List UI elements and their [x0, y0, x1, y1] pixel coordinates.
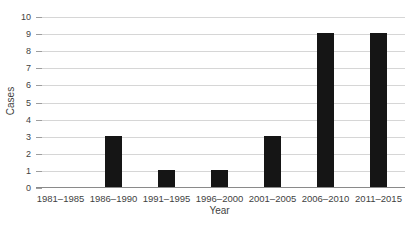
y-tick-label: 2	[0, 148, 31, 160]
y-axis-tick	[36, 188, 42, 189]
x-tick-label: 1991–1995	[140, 193, 193, 205]
y-tick-label: 0	[0, 182, 31, 194]
bar-2011–2015	[370, 33, 387, 187]
x-tick-label: 2006–2010	[299, 193, 352, 205]
bar-2006–2010	[317, 33, 334, 187]
y-axis-tick	[36, 154, 42, 155]
x-axis-line	[36, 187, 405, 188]
gridline	[42, 85, 405, 86]
x-tick-label: 2011–2015	[352, 193, 405, 205]
y-axis-tick	[36, 171, 42, 172]
bar-1986–1990	[105, 136, 122, 187]
y-tick-label: 7	[0, 62, 31, 74]
y-tick-label: 1	[0, 165, 31, 177]
x-tick-label: 2001–2005	[246, 193, 299, 205]
y-tick-label: 8	[0, 45, 31, 57]
y-axis-tick	[36, 120, 42, 121]
y-axis-tick	[36, 68, 42, 69]
gridline	[42, 34, 405, 35]
y-tick-label: 3	[0, 131, 31, 143]
gridline	[42, 17, 405, 18]
bar-1996–2000	[211, 170, 228, 187]
gridline	[42, 120, 405, 121]
x-axis-title: Year	[34, 205, 405, 217]
y-axis-tick	[36, 103, 42, 104]
y-axis-tick	[36, 137, 42, 138]
y-axis-tick	[36, 51, 42, 52]
cases-by-year-bar-chart: Cases Year 0123456789101981–19851986–199…	[0, 0, 409, 225]
y-tick-label: 5	[0, 97, 31, 109]
gridline	[42, 154, 405, 155]
y-axis-tick	[36, 17, 42, 18]
y-axis-tick	[36, 85, 42, 86]
gridline	[42, 103, 405, 104]
y-tick-label: 6	[0, 79, 31, 91]
y-tick-label: 4	[0, 114, 31, 126]
gridline	[42, 68, 405, 69]
bar-1991–1995	[158, 170, 175, 187]
gridline	[42, 137, 405, 138]
y-axis-tick	[36, 34, 42, 35]
bar-2001–2005	[264, 136, 281, 187]
y-tick-label: 9	[0, 28, 31, 40]
x-tick-label: 1986–1990	[87, 193, 140, 205]
x-tick-label: 1981–1985	[34, 193, 87, 205]
plot-area	[34, 17, 405, 188]
x-tick-label: 1996–2000	[193, 193, 246, 205]
y-tick-label: 10	[0, 11, 31, 23]
gridline	[42, 51, 405, 52]
